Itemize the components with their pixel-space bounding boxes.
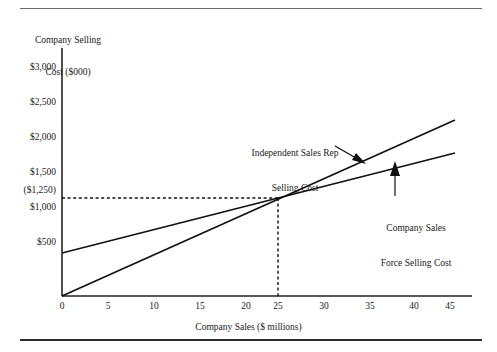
x-tick-label-45: 45: [435, 301, 465, 312]
x-tick-label-0: 0: [47, 301, 77, 312]
x-tick-label-40: 40: [399, 301, 429, 312]
annotation-company-sales-force: Company Sales Force Selling Cost: [352, 199, 480, 294]
figure-container: Company Selling Cost ($000) $3,000 $2,50…: [0, 0, 497, 352]
annotation-independent-sales-rep: Independent Sales Rep Selling Cost: [222, 124, 368, 219]
x-tick-label-35: 35: [355, 301, 385, 312]
annotation-line1: Company Sales: [352, 223, 480, 235]
annotation-line1: Independent Sales Rep: [222, 148, 368, 160]
x-tick-label-20: 20: [231, 301, 261, 312]
annotation-line2: Selling Cost: [222, 183, 368, 195]
x-tick-label-25: 25: [263, 301, 293, 312]
annotation-line2: Force Selling Cost: [352, 258, 480, 270]
x-tick-label-5: 5: [93, 301, 123, 312]
x-axis-title: Company Sales ($ millions): [0, 322, 497, 333]
x-tick-label-30: 30: [309, 301, 339, 312]
x-tick-label-15: 15: [185, 301, 215, 312]
x-tick-label-10: 10: [139, 301, 169, 312]
annotation-arrow-company: [390, 161, 400, 196]
